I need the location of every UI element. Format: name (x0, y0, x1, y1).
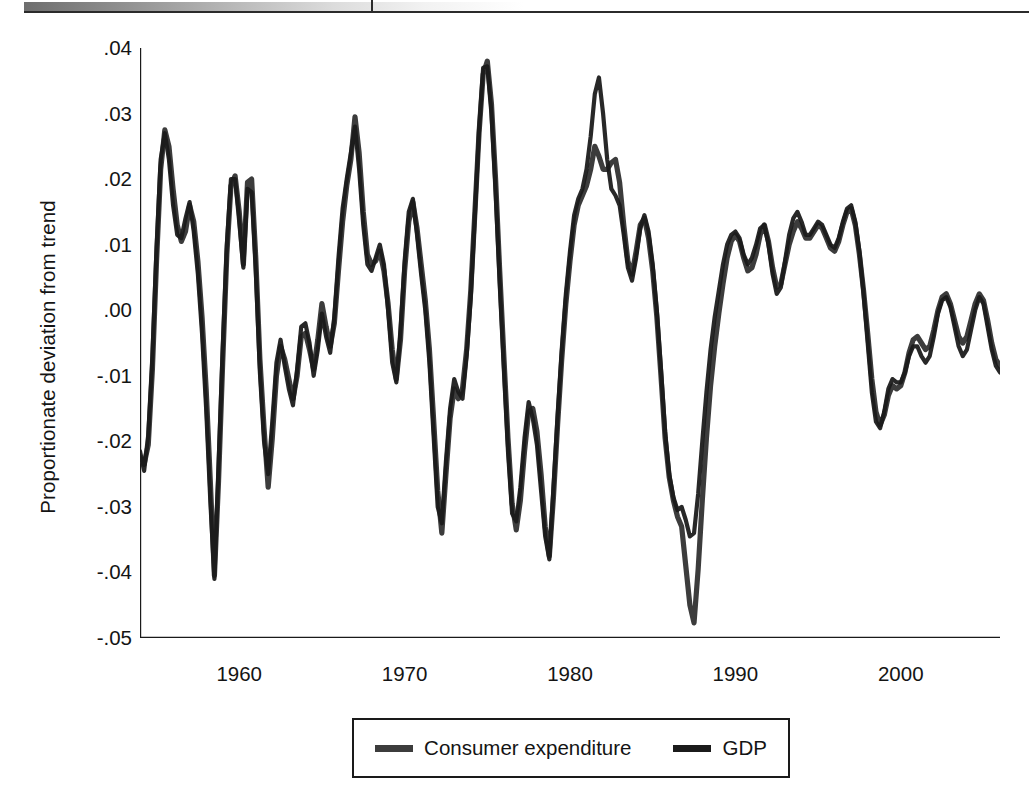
x-tick-label: 2000 (878, 662, 924, 686)
plot-svg (140, 48, 1000, 638)
scan-gradient-band (24, 2, 524, 11)
y-tick-label: .02 (66, 167, 132, 191)
legend-entry-gdp: GDP (673, 736, 766, 760)
legend-entry-consumer-expenditure: Consumer expenditure (375, 736, 631, 760)
legend-label-gdp: GDP (722, 736, 766, 760)
scan-edge-artifact (0, 0, 1033, 14)
series-line-consumer-expenditure (140, 61, 1000, 623)
y-tick-label: .03 (66, 102, 132, 126)
y-axis-tick-labels: .04.03.02.01.00-.01-.02-.03-.04-.05 (50, 48, 132, 638)
legend-label-consumer-expenditure: Consumer expenditure (424, 736, 631, 760)
page-top-tick (371, 0, 373, 11)
y-tick-label: -.04 (66, 560, 132, 584)
y-tick-label: -.03 (66, 495, 132, 519)
legend-swatch-gdp (673, 745, 711, 752)
y-tick-label: -.02 (66, 429, 132, 453)
x-tick-label: 1990 (713, 662, 759, 686)
y-tick-label: .01 (66, 233, 132, 257)
page-top-rule (24, 11, 1029, 13)
x-tick-label: 1970 (382, 662, 428, 686)
legend-swatch-consumer-expenditure (375, 745, 413, 752)
y-tick-label: .00 (66, 298, 132, 322)
y-tick-label: -.05 (66, 626, 132, 650)
y-tick-label: -.01 (66, 364, 132, 388)
chart-figure: Proportionate deviation from trend .04.0… (0, 14, 1033, 801)
x-axis-tick-labels: 19601970198019902000 (140, 662, 1000, 692)
chart-legend: Consumer expenditure GDP (352, 718, 790, 778)
series-line-gdp (140, 66, 1000, 579)
y-tick-label: .04 (66, 36, 132, 60)
x-tick-label: 1960 (216, 662, 262, 686)
plot-area (140, 48, 1000, 638)
x-tick-label: 1980 (547, 662, 593, 686)
